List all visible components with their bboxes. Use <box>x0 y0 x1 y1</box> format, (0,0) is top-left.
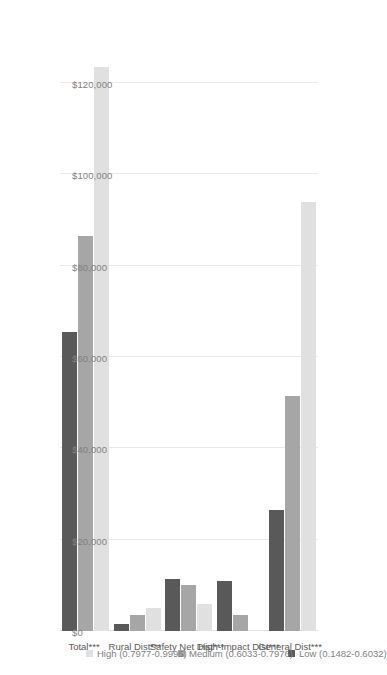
bar[interactable] <box>301 202 316 631</box>
bar[interactable] <box>62 332 77 631</box>
chart-legend: Low (0.1482-0.6032)Medium (0.6033-0.7976… <box>60 648 318 670</box>
axis-tick-label: $40,000 <box>72 444 107 455</box>
legend-swatch-icon <box>86 650 93 657</box>
axis-tick-label: $20,000 <box>72 536 107 547</box>
legend-label: Medium (0.6033-0.7976) <box>189 648 293 659</box>
bar-group <box>114 42 161 631</box>
bar-group <box>217 42 264 631</box>
axis-tick-label: $120,000 <box>72 79 112 90</box>
legend-label: High (0.7977-0.9995) <box>97 648 187 659</box>
axis-tick-label: $0 <box>72 627 83 638</box>
bar[interactable] <box>182 585 197 631</box>
axis-tick-label: $60,000 <box>72 353 107 364</box>
bar-group <box>269 42 316 631</box>
legend-item[interactable]: Low (0.1482-0.6032) <box>288 648 387 659</box>
bar[interactable] <box>114 624 129 631</box>
axis-tick-label: $80,000 <box>72 262 107 273</box>
bar[interactable] <box>166 579 181 632</box>
bar[interactable] <box>198 604 213 631</box>
bar[interactable] <box>130 615 145 631</box>
legend-label: Low (0.1482-0.6032) <box>299 648 387 659</box>
bar[interactable] <box>269 510 284 631</box>
bar[interactable] <box>78 236 93 631</box>
bar[interactable] <box>217 581 232 631</box>
bar-group <box>166 42 213 631</box>
legend-item[interactable]: Medium (0.6033-0.7976) <box>178 648 293 659</box>
bar[interactable] <box>146 608 161 631</box>
legend-item[interactable]: High (0.7977-0.9995) <box>86 648 187 659</box>
axis-tick-label: $100,000 <box>72 170 112 181</box>
bar[interactable] <box>285 396 300 631</box>
bar[interactable] <box>233 615 248 631</box>
